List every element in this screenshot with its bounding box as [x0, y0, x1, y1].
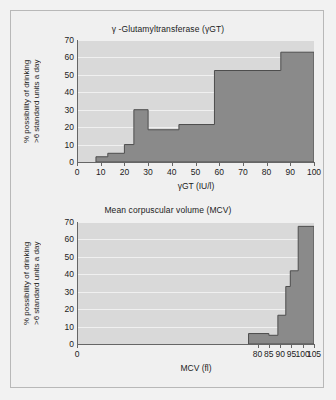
- y-ticks-mcv: 010203040506070: [48, 222, 74, 344]
- chart-title-gamma-gt: γ -Glutamyltransferase (γGT): [0, 24, 336, 34]
- x-tick-label: 90: [275, 349, 284, 359]
- x-tick-mark: [280, 345, 281, 348]
- y-tick-label: 20: [50, 122, 74, 132]
- y-tick-label: 30: [50, 287, 74, 297]
- y-tick-label: 70: [50, 35, 74, 45]
- x-tick-mark: [314, 163, 315, 166]
- x-tick-mark: [258, 345, 259, 348]
- x-tick-mark: [314, 345, 315, 348]
- y-tick-label: 30: [50, 105, 74, 115]
- y-tick-label: 10: [50, 322, 74, 332]
- x-tick-label: 105: [307, 349, 321, 359]
- y-tick-label: 50: [50, 70, 74, 80]
- y-axis-line-gamma-gt: [77, 40, 78, 163]
- x-tick-label: 10: [96, 167, 105, 177]
- y-tick-label: 70: [50, 217, 74, 227]
- step-area-path: [96, 52, 314, 162]
- x-tick-label: 90: [286, 167, 295, 177]
- figure-root: γ -Glutamyltransferase (γGT) % possibili…: [0, 0, 336, 400]
- plot-area-mcv: [77, 222, 314, 344]
- x-tick-label: 30: [143, 167, 152, 177]
- series-gamma-gt: [77, 40, 314, 162]
- chart-panel-gamma-gt: γ -Glutamyltransferase (γGT) % possibili…: [0, 14, 336, 194]
- series-mcv: [77, 222, 314, 344]
- x-tick-label: 60: [214, 167, 223, 177]
- y-tick-label: 20: [50, 304, 74, 314]
- x-tick-mark: [243, 163, 244, 166]
- plot-area-gamma-gt: [77, 40, 314, 162]
- x-tick-label: 20: [120, 167, 129, 177]
- chart-title-mcv: Mean corpuscular volume (MCV): [0, 205, 336, 215]
- y-tick-label: 50: [50, 252, 74, 262]
- x-tick-label: 0: [75, 167, 80, 177]
- x-tick-label: 70: [238, 167, 247, 177]
- y-ticks-gamma-gt: 010203040506070: [48, 40, 74, 162]
- y-tick-label: 60: [50, 234, 74, 244]
- x-tick-mark: [269, 345, 270, 348]
- y-axis-label-gamma-gt: % possibility of drinking >6 standard un…: [22, 40, 46, 162]
- x-tick-label: 40: [167, 167, 176, 177]
- x-tick-mark: [303, 345, 304, 348]
- x-tick-label: 100: [307, 167, 321, 177]
- x-tick-label: 50: [191, 167, 200, 177]
- y-tick-label: 40: [50, 87, 74, 97]
- x-tick-label: 80: [253, 349, 262, 359]
- step-area-path: [249, 226, 314, 344]
- x-tick-label: 0: [75, 349, 80, 359]
- x-tick-mark: [219, 163, 220, 166]
- x-tick-mark: [291, 345, 292, 348]
- x-axis-label-mcv: MCV (fl): [77, 363, 315, 373]
- x-tick-mark: [77, 345, 78, 348]
- x-axis-label-gamma-gt: γGT (IU/l): [77, 181, 315, 191]
- x-tick-mark: [77, 163, 78, 166]
- x-tick-mark: [101, 163, 102, 166]
- x-tick-mark: [172, 163, 173, 166]
- x-tick-label: 80: [262, 167, 271, 177]
- x-tick-mark: [196, 163, 197, 166]
- x-tick-mark: [290, 163, 291, 166]
- x-tick-mark: [124, 163, 125, 166]
- y-tick-label: 60: [50, 52, 74, 62]
- y-axis-line-mcv: [77, 222, 78, 345]
- y-tick-label: 0: [50, 339, 74, 349]
- x-tick-label: 85: [264, 349, 273, 359]
- y-axis-label-mcv: % possibility of drinking >6 standard un…: [22, 222, 46, 344]
- x-tick-mark: [148, 163, 149, 166]
- x-tick-mark: [267, 163, 268, 166]
- y-tick-label: 0: [50, 157, 74, 167]
- y-tick-label: 40: [50, 269, 74, 279]
- chart-panel-mcv: Mean corpuscular volume (MCV) % possibil…: [0, 200, 336, 390]
- y-tick-label: 10: [50, 140, 74, 150]
